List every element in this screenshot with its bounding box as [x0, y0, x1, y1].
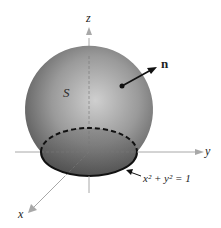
x-axis-label: x [18, 208, 23, 220]
surface-label: S [63, 86, 70, 99]
normal-label: n [161, 57, 168, 70]
y-arrow-icon [195, 149, 204, 155]
boundary-equation: x² + y² = 1 [143, 173, 191, 184]
equation-pointer [126, 169, 141, 176]
y-axis-label: y [205, 145, 210, 157]
sphere-surface-diagram [0, 0, 221, 228]
z-axis-label: z [86, 12, 91, 24]
z-arrow-icon [86, 27, 92, 35]
